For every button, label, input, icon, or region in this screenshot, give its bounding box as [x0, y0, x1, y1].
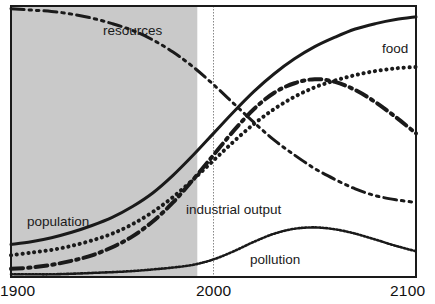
x-axis-tick-2000: 2000 — [196, 282, 231, 300]
chart-figure: 1900 2000 2100 resources food population… — [0, 0, 435, 304]
series-label-food: food — [382, 41, 408, 56]
limits-to-growth-line-chart — [0, 0, 435, 304]
series-label-industrial-output: industrial output — [186, 202, 281, 217]
series-label-pollution: pollution — [250, 252, 300, 267]
x-axis-tick-1900: 1900 — [0, 282, 35, 300]
series-label-population: population — [27, 214, 89, 229]
x-axis-tick-2100: 2100 — [390, 282, 425, 300]
series-label-resources: resources — [103, 23, 162, 38]
shaded-historical-region — [11, 6, 197, 277]
